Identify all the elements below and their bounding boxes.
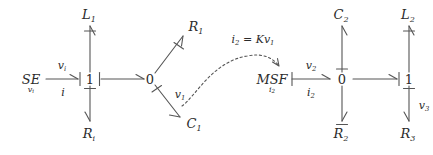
bond-label-msf-effort: v2 — [306, 60, 317, 73]
source-effort-subscript: vi — [28, 86, 34, 95]
element-inductor-2: L2 — [401, 8, 415, 24]
bond-label-msf-flow: i2 — [307, 87, 315, 100]
junction-1-right: 1 — [405, 73, 413, 86]
element-resistor-1: R1 — [189, 20, 204, 36]
halfarrow-junction1right-to-R3 — [404, 112, 409, 121]
element-resistor-2: R2 — [334, 127, 349, 143]
element-capacitor-2: C2 — [333, 8, 348, 24]
halfarrow-junction1-to-Ri — [85, 112, 90, 121]
bond-label-one-to-r3: v3 — [419, 100, 430, 113]
halfarrow-junction1-to-junction0 — [136, 75, 144, 80]
junction-0-left: 0 — [146, 73, 154, 86]
modulation-equation: i2 = Kv1 — [232, 34, 275, 47]
msf-label: MSF — [256, 72, 287, 87]
element-inductor-1: L1 — [82, 8, 96, 24]
bond-label-zero-to-c1: v1 — [175, 89, 186, 102]
bond-junction0-to-R1 — [155, 36, 183, 73]
halfarrow-se-to-junction1 — [70, 75, 78, 80]
halfarrow-junction0-to-junction1right — [389, 75, 397, 80]
bond-label-se-effort: vi — [58, 60, 66, 73]
bond-graph-lines — [0, 0, 433, 155]
element-resistor-i: Ri — [83, 127, 95, 143]
element-capacitor-1: C1 — [186, 117, 201, 133]
halfarrow-junction0-to-C2 — [342, 26, 347, 35]
modulation-arrowhead — [273, 59, 280, 67]
element-modulated-source-flow: MSFi2 — [256, 73, 287, 86]
bond-graph-diagram: SEvi vi i 1 L1 Ri 0 R1 C1 v1 i2 = Kv1 MS… — [0, 0, 433, 155]
element-source-effort: SEvi — [22, 73, 40, 86]
halfarrow-msf-to-junction0 — [322, 75, 330, 80]
element-resistor-3: R3 — [401, 127, 416, 143]
bond-label-se-flow: i — [61, 87, 65, 98]
junction-1-left: 1 — [86, 73, 94, 86]
halfarrow-junction0-to-R2 — [342, 112, 347, 121]
msf-subscript: i2 — [269, 86, 275, 95]
junction-0-right: 0 — [338, 73, 346, 86]
